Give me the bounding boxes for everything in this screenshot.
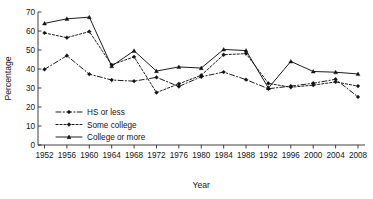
x-tick-label: 1960 (80, 151, 99, 160)
legend-item-hs-or-less: HS or less (56, 108, 125, 117)
y-axis-title: Percentage (3, 56, 13, 100)
legend-item-some-college: Some college (56, 121, 137, 130)
y-tick-label: 20 (26, 103, 36, 112)
data-point-marker (177, 82, 181, 86)
y-tick-label: 10 (26, 122, 36, 131)
chart-figure: 0102030405060701952195619601964196819721… (0, 0, 373, 199)
x-tick-label: 2008 (349, 151, 368, 160)
legend-item-college-or-more: College or more (56, 133, 146, 142)
data-point-marker (155, 75, 159, 79)
data-point-marker (244, 78, 248, 82)
data-point-marker (356, 84, 360, 88)
y-tick-label: 50 (26, 46, 36, 55)
x-tick-label: 1996 (282, 151, 301, 160)
x-tick-label: 1992 (259, 151, 278, 160)
legend-label: HS or less (87, 108, 125, 117)
x-tick-label: 1956 (58, 151, 77, 160)
y-axis-ticks: 010203040506070 (26, 8, 42, 150)
x-tick-label: 1964 (103, 151, 122, 160)
data-point-marker (289, 59, 293, 63)
x-axis-ticks: 1952195619601964196819721976198019841988… (35, 145, 367, 160)
legend-label: College or more (87, 133, 146, 142)
y-tick-label: 30 (26, 84, 36, 93)
x-tick-label: 1976 (170, 151, 189, 160)
data-point-marker (65, 36, 69, 40)
data-point-marker (132, 49, 136, 53)
x-tick-label: 1984 (215, 151, 234, 160)
series-some-college (43, 30, 360, 95)
data-point-marker (132, 79, 136, 83)
data-point-marker (43, 31, 47, 35)
legend-label: Some college (87, 121, 137, 130)
data-point-marker (110, 78, 114, 82)
x-tick-label: 1980 (192, 151, 211, 160)
x-axis-title: Year (193, 180, 211, 190)
data-point-marker (67, 110, 71, 114)
x-tick-label: 1972 (147, 151, 166, 160)
y-tick-label: 60 (26, 27, 36, 36)
data-point-marker (67, 123, 71, 127)
x-tick-label: 1968 (125, 151, 144, 160)
line-chart: 0102030405060701952195619601964196819721… (0, 0, 373, 199)
x-tick-label: 1952 (35, 151, 54, 160)
data-point-marker (222, 70, 226, 74)
series-line (45, 32, 359, 93)
y-tick-label: 70 (26, 8, 36, 17)
x-tick-label: 2000 (304, 151, 323, 160)
y-tick-label: 40 (26, 65, 36, 74)
x-tick-label: 1988 (237, 151, 256, 160)
y-tick-label: 0 (30, 141, 35, 150)
chart-legend: HS or lessSome collegeCollege or more (56, 108, 146, 142)
x-tick-label: 2004 (326, 151, 345, 160)
